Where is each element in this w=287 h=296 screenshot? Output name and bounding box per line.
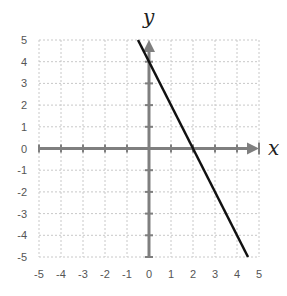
y-tick-label: 4 — [21, 56, 27, 68]
y-tick-label: -1 — [17, 164, 27, 176]
x-tick-label: 3 — [212, 268, 218, 280]
x-tick-label: 2 — [190, 268, 196, 280]
y-tick-label: -4 — [17, 229, 27, 241]
axes — [39, 40, 259, 257]
tick-labels: -5-4-3-2-1012345543210-1-2-3-4-5 — [17, 34, 262, 280]
y-tick-label: 1 — [21, 121, 27, 133]
y-axis-label: y — [142, 5, 155, 29]
y-tick-label: -2 — [17, 186, 27, 198]
x-tick-label: -5 — [34, 268, 44, 280]
x-tick-label: 0 — [146, 268, 152, 280]
x-tick-label: 1 — [168, 268, 174, 280]
y-tick-label: 2 — [21, 99, 27, 111]
x-axis-label: x — [268, 136, 279, 160]
y-tick-label: -5 — [17, 251, 27, 263]
y-tick-label: 5 — [21, 34, 27, 46]
y-tick-label: -3 — [17, 208, 27, 220]
coordinate-plane: -5-4-3-2-1012345543210-1-2-3-4-5 x y — [0, 0, 287, 296]
x-tick-label: -4 — [56, 268, 66, 280]
y-tick-label: 3 — [21, 77, 27, 89]
x-tick-label: -2 — [100, 268, 110, 280]
y-tick-label: 0 — [21, 143, 27, 155]
x-tick-label: -3 — [78, 268, 88, 280]
x-tick-label: -1 — [122, 268, 132, 280]
x-tick-label: 5 — [256, 268, 262, 280]
x-tick-label: 4 — [234, 268, 240, 280]
